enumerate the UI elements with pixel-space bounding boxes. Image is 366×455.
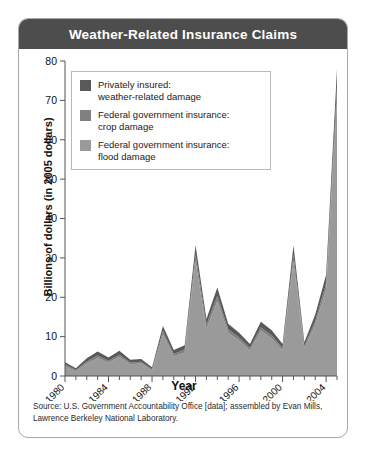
source-line-2: Lawrence Berkeley National Laboratory.: [33, 413, 335, 425]
legend-swatch-icon: [80, 80, 91, 91]
legend-label: Privately insured:weather-related damage: [98, 79, 201, 102]
page-title: Weather-Related Insurance Claims: [69, 27, 297, 42]
legend-swatch-icon: [80, 110, 91, 121]
source-note: Source: U.S. Government Accountability O…: [19, 401, 348, 424]
y-tick-label: 10: [45, 330, 57, 342]
x-axis-title: Year: [19, 379, 348, 393]
legend-label: Federal government insurance:flood damag…: [98, 139, 230, 162]
legend-swatch-icon: [80, 140, 91, 151]
y-tick-label: 80: [45, 55, 57, 67]
y-axis-title: Billions of dollars (in 2005 dollars): [42, 82, 54, 332]
chart-header: Weather-Related Insurance Claims: [19, 19, 347, 49]
plot-area: 0102030405060708019801984198819921996200…: [19, 49, 348, 401]
chart-legend: Privately insured:weather-related damage…: [71, 71, 271, 170]
source-line-1: Source: U.S. Government Accountability O…: [33, 401, 335, 413]
legend-item: Privately insured:weather-related damage: [80, 79, 262, 102]
legend-item: Federal government insurance:flood damag…: [80, 139, 262, 162]
legend-label: Federal government insurance:crop damage: [98, 109, 230, 132]
legend-item: Federal government insurance:crop damage: [80, 109, 262, 132]
chart-card: Weather-Related Insurance Claims 0102030…: [18, 18, 348, 438]
